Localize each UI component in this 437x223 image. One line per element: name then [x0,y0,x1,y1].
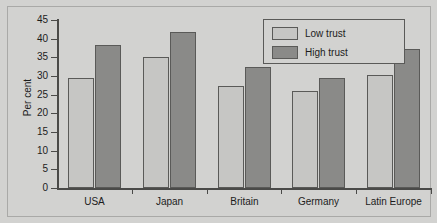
legend-swatch-high [272,46,298,59]
x-tick-label-japan: Japan [132,196,207,207]
x-tick-label-germany: Germany [281,196,356,207]
legend-swatch-low [272,27,298,40]
y-tick [51,39,57,40]
y-tick-label: 35 [22,52,48,62]
bar-germany-high-trust [319,78,345,188]
x-tick-label-britain: Britain [207,196,282,207]
x-axis-line [57,188,431,190]
x-tick [207,188,208,194]
y-tick [51,188,57,189]
y-axis-line [57,19,59,189]
bar-britain-high-trust [245,67,271,188]
bar-usa-high-trust [95,45,121,188]
bar-latin-europe-low-trust [367,75,393,188]
y-tick-label: 30 [22,71,48,81]
y-tick-label: 15 [22,127,48,137]
y-tick-label: 5 [22,164,48,174]
x-tick-label-usa: USA [57,196,132,207]
bar-latin-europe-high-trust [394,49,420,188]
y-tick [51,151,57,152]
y-tick-label: 40 [22,34,48,44]
y-tick [51,20,57,21]
plot-area: Per cent 051015202530354045 USAJapanBrit… [0,0,437,223]
bar-britain-low-trust [218,86,244,188]
bar-japan-low-trust [143,57,169,188]
bar-usa-low-trust [68,78,94,188]
x-tick [356,188,357,194]
x-tick [281,188,282,194]
y-tick-label: 20 [22,108,48,118]
y-tick-label: 10 [22,146,48,156]
legend-label: High trust [305,46,348,59]
legend-label: Low trust [305,27,346,40]
y-tick [51,113,57,114]
x-tick [431,188,432,194]
bar-japan-high-trust [170,32,196,188]
y-tick [51,132,57,133]
bar-germany-low-trust [292,91,318,188]
y-tick-label: 0 [22,183,48,193]
x-tick-label-latin-europe: Latin Europe [356,196,431,207]
chart-figure: Per cent 051015202530354045 USAJapanBrit… [0,0,437,223]
y-tick [51,95,57,96]
y-tick-label: 45 [22,15,48,25]
x-tick [132,188,133,194]
y-tick-label: 25 [22,90,48,100]
y-tick [51,169,57,170]
y-tick [51,76,57,77]
y-tick [51,57,57,58]
chart-legend: Low trustHigh trust [263,19,405,64]
